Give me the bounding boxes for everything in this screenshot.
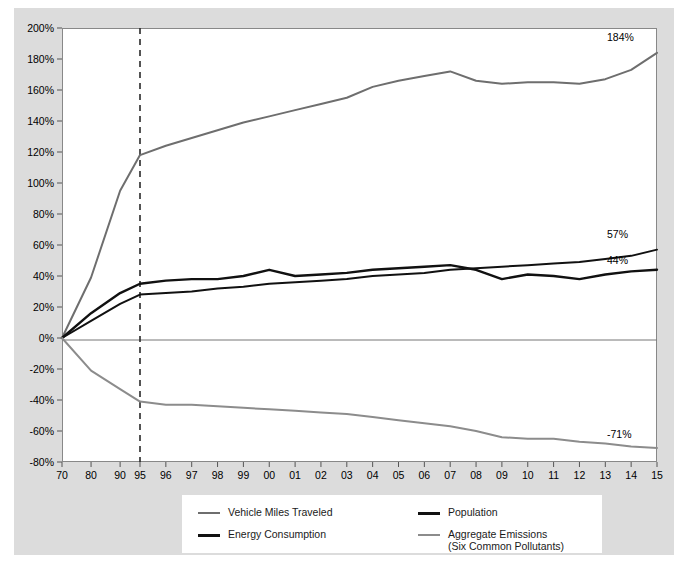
x-axis-tick-label: 03 <box>334 470 360 480</box>
x-axis-tick-label: 08 <box>463 470 489 480</box>
legend-color-swatch <box>418 512 440 515</box>
series-line <box>62 265 657 338</box>
y-axis-tick-label: 80% <box>8 209 54 219</box>
y-axis-tick-label: -80% <box>8 457 54 467</box>
x-axis-tick-label: 13 <box>592 470 618 480</box>
series-end-value-label: 57% <box>607 228 628 240</box>
x-axis-tick-label: 02 <box>308 470 334 480</box>
y-axis-tick-label: -40% <box>8 395 54 405</box>
x-axis-tick-label: 14 <box>618 470 644 480</box>
y-axis-tick-label: 160% <box>8 85 54 95</box>
y-axis-tick-label: 40% <box>8 271 54 281</box>
x-axis-tick-label: 98 <box>205 470 231 480</box>
legend-color-swatch <box>418 534 440 536</box>
x-axis-tick-label: 04 <box>360 470 386 480</box>
series-end-value-label: -71% <box>607 428 632 440</box>
x-axis-tick-label: 01 <box>282 470 308 480</box>
x-axis-tick-label: 12 <box>566 470 592 480</box>
series-end-value-label: 184% <box>607 31 634 43</box>
x-axis-tick-label: 06 <box>411 470 437 480</box>
x-axis-tick-label: 09 <box>489 470 515 480</box>
y-axis-tick-label: 60% <box>8 240 54 250</box>
x-axis-tick-label: 99 <box>230 470 256 480</box>
y-axis-tick-label: 140% <box>8 116 54 126</box>
y-axis-tick-label: -60% <box>8 426 54 436</box>
y-axis-tick-label: 180% <box>8 54 54 64</box>
series-line <box>62 338 657 448</box>
y-axis-tick-label: 120% <box>8 147 54 157</box>
y-axis-tick-label: 100% <box>8 178 54 188</box>
y-axis-tick-label: 0% <box>8 333 54 343</box>
chart-svg <box>0 0 688 578</box>
x-axis-tick-label: 97 <box>179 470 205 480</box>
legend-label: Energy Consumption <box>228 528 326 540</box>
series-line <box>62 53 657 338</box>
legend-label-line2: (Six Common Pollutants) <box>448 540 564 552</box>
legend-color-swatch <box>198 512 220 514</box>
legend-label: Aggregate Emissions(Six Common Pollutant… <box>448 528 564 552</box>
x-axis-tick-label: 15 <box>644 470 670 480</box>
legend-label: Population <box>448 506 498 518</box>
x-axis-tick-label: 70 <box>49 470 75 480</box>
legend-color-swatch <box>198 534 220 537</box>
y-axis-tick-label: 200% <box>8 23 54 33</box>
y-axis-tick-label: 20% <box>8 302 54 312</box>
y-axis-tick-label: -20% <box>8 364 54 374</box>
series-lines <box>62 53 657 448</box>
x-axis-tick-label: 96 <box>153 470 179 480</box>
x-axis-tick-label: 00 <box>256 470 282 480</box>
x-axis-tick-label: 80 <box>78 470 104 480</box>
x-axis-tick-label: 11 <box>541 470 567 480</box>
series-end-value-label: 44% <box>607 254 628 266</box>
x-axis-tick-label: 07 <box>437 470 463 480</box>
legend-label: Vehicle Miles Traveled <box>228 506 332 518</box>
x-axis-tick-label: 95 <box>127 470 153 480</box>
figure-root: 200%180%160%140%120%100%80%60%40%20%0%-2… <box>0 0 688 578</box>
series-line <box>62 250 657 338</box>
x-axis-tick-label: 10 <box>515 470 541 480</box>
x-axis-tick-label: 05 <box>386 470 412 480</box>
